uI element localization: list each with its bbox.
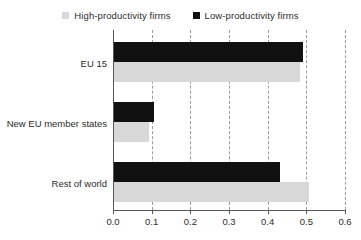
x-tick-label-0.1: 0.1 [145, 216, 158, 227]
x-tick-0.6 [345, 210, 346, 214]
bar-chart: High-productivity firms Low-productivity… [0, 0, 361, 240]
x-tick-0.3 [229, 210, 230, 214]
legend-swatch-low-productivity-icon [193, 12, 200, 19]
bar-rest-of-world-low-productivity [113, 162, 280, 182]
x-tick-0.0 [113, 210, 114, 214]
bar-eu-15-low-productivity [113, 42, 303, 62]
legend-label-low-productivity: Low-productivity firms [205, 10, 299, 21]
plot-area: 0.0 0.1 0.2 0.3 0.4 0.5 0.6 [113, 30, 345, 210]
x-tick-0.4 [268, 210, 269, 214]
y-axis-label-rest-of-world: Rest of world [52, 178, 107, 189]
x-tick-label-0.4: 0.4 [261, 216, 274, 227]
legend-item-low-productivity: Low-productivity firms [193, 10, 299, 21]
bar-eu-15-high-productivity [113, 62, 300, 82]
y-axis-label-new-eu-member-states: New EU member states [7, 118, 107, 129]
y-axis-spine [113, 30, 114, 210]
x-tick-label-0.0: 0.0 [106, 216, 119, 227]
x-tick-0.1 [152, 210, 153, 214]
x-tick-label-0.2: 0.2 [184, 216, 197, 227]
bar-new-eu-member-states-high-productivity [113, 122, 149, 142]
y-axis-labels: EU 15 New EU member states Rest of world [0, 0, 113, 240]
y-axis-label-eu-15: EU 15 [81, 58, 107, 69]
x-tick-0.5 [306, 210, 307, 214]
x-tick-label-0.5: 0.5 [300, 216, 313, 227]
bar-new-eu-member-states-low-productivity [113, 102, 154, 122]
gridline-0.6 [345, 30, 346, 210]
x-tick-label-0.3: 0.3 [222, 216, 235, 227]
bar-rest-of-world-high-productivity [113, 182, 309, 202]
x-tick-label-0.6: 0.6 [338, 216, 351, 227]
x-tick-0.2 [190, 210, 191, 214]
